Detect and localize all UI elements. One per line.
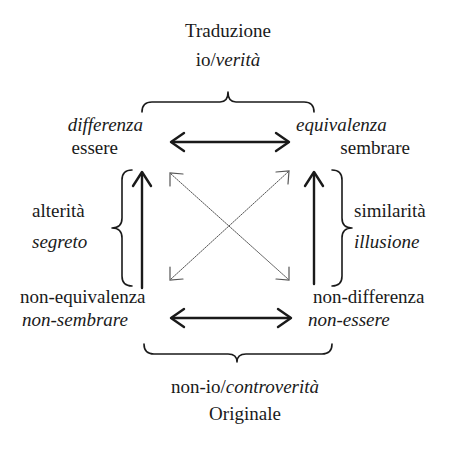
left-up-arrow: [133, 172, 151, 288]
bottom-brace: [144, 344, 332, 362]
diagonal-arrow-tr-bl: [170, 171, 289, 280]
diagram-lines: [0, 0, 473, 452]
bottom-double-arrow: [171, 309, 291, 327]
left-brace: [112, 170, 132, 286]
right-brace: [332, 170, 352, 286]
right-up-arrow: [305, 172, 323, 284]
top-brace: [142, 92, 314, 112]
top-double-arrow: [171, 133, 289, 151]
